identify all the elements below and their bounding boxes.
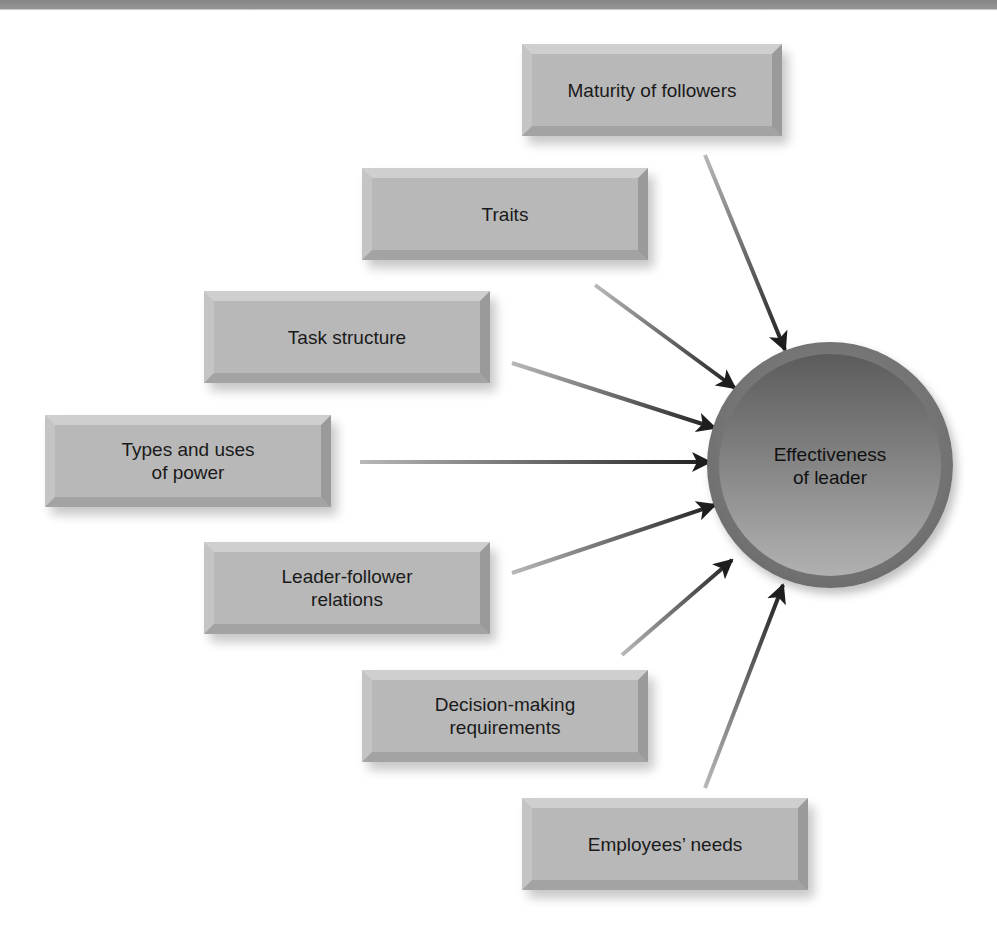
factor-box-employees-needs: Employees’ needs [522, 798, 808, 890]
arrow-decision [622, 560, 732, 655]
center-node-face: Effectiveness of leader [719, 354, 941, 576]
center-node-effectiveness: Effectiveness of leader [707, 342, 953, 588]
arrow-traits [595, 285, 735, 388]
factor-box-relations: Leader-follower relations [204, 542, 490, 634]
factor-label: Employees’ needs [588, 833, 743, 856]
arrow-needs [705, 585, 783, 788]
factor-box-traits: Traits [362, 168, 648, 260]
factor-label: Maturity of followers [568, 79, 737, 102]
factor-box-decision-making: Decision-making requirements [362, 670, 648, 762]
factor-label: Task structure [288, 326, 406, 349]
arrow-relations [512, 505, 715, 573]
factor-box-task-structure: Task structure [204, 291, 490, 383]
factor-box-maturity: Maturity of followers [522, 44, 782, 136]
center-node-label: Effectiveness of leader [774, 443, 887, 489]
factor-box-power: Types and uses of power [45, 415, 331, 507]
factor-label: Decision-making requirements [435, 693, 575, 739]
factor-label: Leader-follower relations [282, 565, 413, 611]
factor-label: Traits [482, 203, 529, 226]
factor-label: Types and uses of power [121, 438, 254, 484]
arrow-task [512, 363, 715, 428]
arrow-maturity [705, 155, 785, 350]
